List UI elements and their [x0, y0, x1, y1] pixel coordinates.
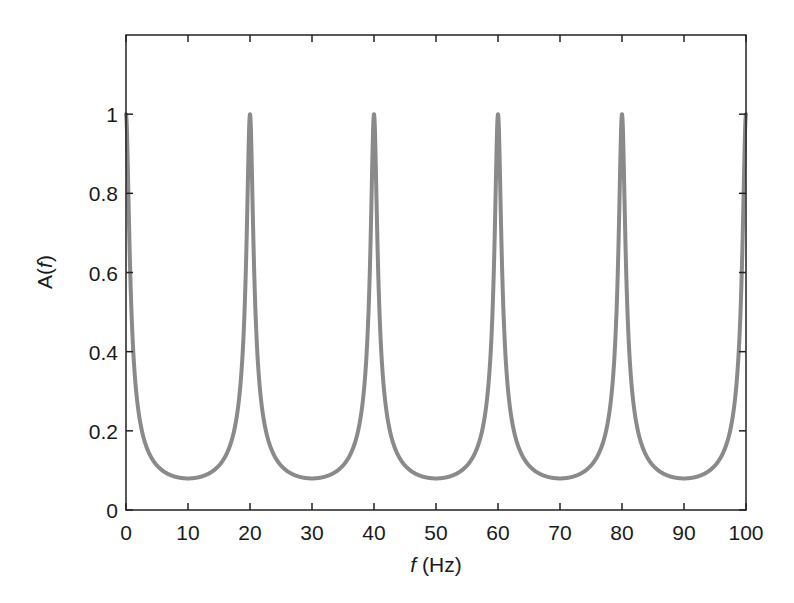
x-tick-label: 40 — [362, 521, 385, 544]
y-tick-label: 0.2 — [89, 420, 118, 443]
y-tick-label: 0.8 — [89, 182, 118, 205]
axes-frame — [126, 35, 746, 510]
x-tick-label: 60 — [486, 521, 509, 544]
y-axis-label: A(f) — [33, 255, 56, 289]
x-tick-label: 50 — [424, 521, 447, 544]
y-tick-label: 0.6 — [89, 262, 118, 285]
x-tick-label: 30 — [300, 521, 323, 544]
x-tick-label: 0 — [120, 521, 132, 544]
y-axis-label-prefix: A( — [33, 268, 56, 289]
y-axis-label-suffix: ) — [33, 255, 56, 262]
y-tick-labels: 00.20.40.60.81 — [89, 103, 119, 522]
x-tick-label: 20 — [238, 521, 261, 544]
x-tick-label: 70 — [548, 521, 571, 544]
series-line-A-f — [126, 114, 746, 478]
line-chart: 0102030405060708090100 00.20.40.60.81 f … — [0, 0, 794, 603]
y-tick-label: 1 — [106, 103, 118, 126]
x-tick-label: 100 — [728, 521, 763, 544]
x-tick-label: 10 — [176, 521, 199, 544]
axis-ticks — [126, 35, 746, 510]
y-tick-label: 0.4 — [89, 341, 119, 364]
x-tick-label: 90 — [672, 521, 695, 544]
x-axis-label: f (Hz) — [410, 553, 461, 576]
x-tick-labels: 0102030405060708090100 — [120, 521, 763, 544]
x-tick-label: 80 — [610, 521, 633, 544]
y-tick-label: 0 — [106, 499, 118, 522]
x-axis-label-unit: (Hz) — [416, 553, 462, 576]
plot-area — [126, 114, 746, 478]
